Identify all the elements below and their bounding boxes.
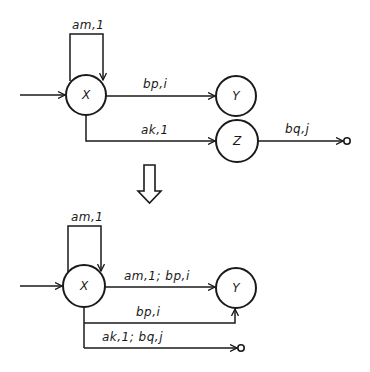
top-node-z-label: Z xyxy=(232,134,242,148)
state-diagram: am,1 bp,i ak,1 bq,j X Y Z am,1 am,1; bp,… xyxy=(0,0,370,372)
top-diagram: am,1 bp,i ak,1 bq,j X Y Z xyxy=(20,18,350,162)
hollow-down-arrow-icon xyxy=(138,165,161,203)
top-z-to-output-label: bq,j xyxy=(285,122,310,136)
bottom-node-x-label: X xyxy=(79,279,89,293)
bottom-x-to-output-label: ak,1; bq,j xyxy=(102,330,163,344)
top-node-x-label: X xyxy=(81,88,91,102)
bottom-self-loop-label: am,1 xyxy=(71,210,104,224)
top-self-loop-edge xyxy=(70,34,103,81)
top-x-to-y-label: bp,i xyxy=(143,77,168,91)
bottom-diagram: am,1 am,1; bp,i bp,i ak,1; bq,j X Y xyxy=(20,210,256,351)
bottom-x-to-y-label-bp: bp,i xyxy=(136,305,161,319)
bottom-x-to-y-label-combined: am,1; bp,i xyxy=(124,269,190,283)
top-x-to-z-label: ak,1 xyxy=(141,123,169,137)
top-self-loop-label: am,1 xyxy=(72,18,105,32)
top-output-terminal-icon xyxy=(344,138,350,144)
bottom-output-terminal-icon xyxy=(238,345,244,351)
